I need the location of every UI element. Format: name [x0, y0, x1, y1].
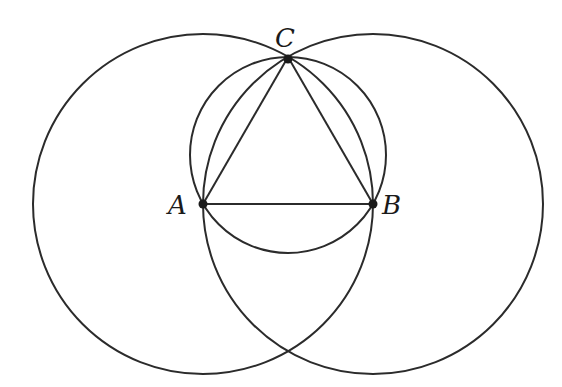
label-c: C [275, 23, 295, 53]
label-b: B [381, 190, 401, 220]
segment-ac [203, 57, 288, 204]
diagram-canvas: A B C [0, 0, 562, 387]
label-a: A [166, 190, 187, 220]
point-c-dot [284, 55, 293, 64]
point-a-dot [199, 200, 208, 209]
geometry-figure: A B C [0, 0, 562, 387]
segment-bc [288, 57, 373, 204]
circumcircle-abc [190, 57, 386, 253]
point-b-dot [369, 200, 378, 209]
